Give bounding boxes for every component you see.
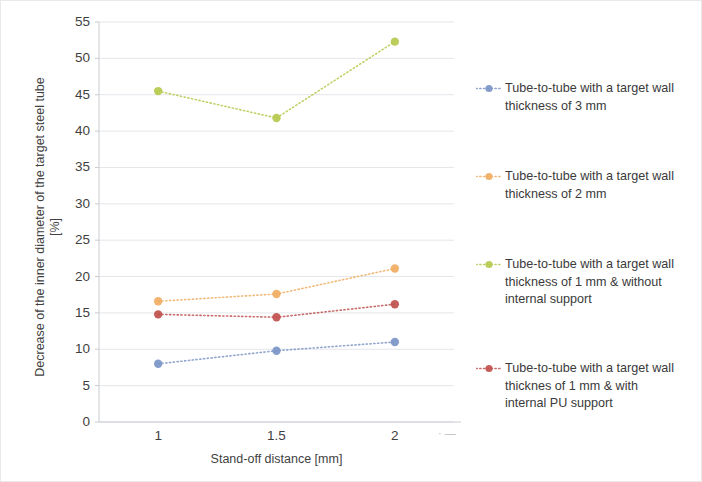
y-axis-tick-label: 25 [44, 233, 90, 247]
data-point-marker[interactable] [154, 310, 162, 318]
chart-figure: Decrease of the inner diameter of the ta… [0, 0, 702, 482]
y-axis-tick-label: 0 [44, 415, 90, 429]
x-axis-tick-label: 2 [365, 428, 425, 443]
gridlines [95, 22, 454, 422]
y-axis-tick-label: 15 [44, 306, 90, 320]
x-axis-tick-labels: 11.52 [99, 428, 464, 448]
y-axis-tick-label: 50 [44, 51, 90, 65]
legend-marker-green [476, 256, 502, 273]
y-axis-tick-labels: 5550454035302520151050 [44, 0, 90, 482]
data-point-marker[interactable] [391, 300, 399, 308]
legend-entry[interactable]: Tube-to-tube with a target wall thicknes… [476, 256, 698, 309]
series-markers [154, 37, 399, 368]
series-line [158, 42, 395, 118]
y-axis-tick-label: 55 [44, 15, 90, 29]
plot-area [99, 22, 454, 422]
scan-artifact-top [0, 0, 702, 1]
data-point-marker[interactable] [154, 87, 162, 95]
y-axis-tick-label: 45 [44, 88, 90, 102]
y-axis-tick-label: 40 [44, 124, 90, 138]
data-point-marker[interactable] [391, 338, 399, 346]
legend-entry-label: Tube-to-tube with a target wall thicknes… [505, 360, 698, 413]
y-axis-tick-label: 20 [44, 270, 90, 284]
plot-canvas [99, 22, 454, 422]
data-point-marker[interactable] [272, 114, 280, 122]
data-point-marker[interactable] [391, 264, 399, 272]
y-axis-tick-label: 35 [44, 160, 90, 174]
legend-entry[interactable]: Tube-to-tube with a target wall thicknes… [476, 80, 698, 115]
data-point-marker[interactable] [272, 313, 280, 321]
y-axis-tick-label: 30 [44, 197, 90, 211]
scan-artifact-left [0, 0, 1, 482]
data-point-marker[interactable] [154, 360, 162, 368]
legend-entry[interactable]: Tube-to-tube with a target wall thicknes… [476, 360, 698, 413]
data-point-marker[interactable] [272, 290, 280, 298]
legend-entry-label: Tube-to-tube with a target wall thicknes… [505, 256, 698, 309]
scan-artifact-dashes: · ― [438, 427, 456, 439]
y-axis-spine [96, 14, 102, 430]
x-axis-tick-label: 1 [128, 428, 188, 443]
legend-entry[interactable]: Tube-to-tube with a target wall thicknes… [476, 168, 698, 203]
data-point-marker[interactable] [272, 347, 280, 355]
legend-marker-blue [476, 80, 502, 97]
x-axis-title: Stand-off distance [mm] [99, 452, 454, 466]
legend-entry-label: Tube-to-tube with a target wall thicknes… [505, 80, 698, 115]
data-point-marker[interactable] [391, 37, 399, 45]
y-axis-tick-label: 10 [44, 342, 90, 356]
data-point-marker[interactable] [154, 297, 162, 305]
legend-marker-orange [476, 168, 502, 185]
y-axis-tick-label: 5 [44, 379, 90, 393]
x-axis-tick-label: 1.5 [247, 428, 307, 443]
legend-marker-red [476, 360, 502, 377]
x-axis-spine [96, 418, 464, 428]
legend-entry-label: Tube-to-tube with a target wall thicknes… [505, 168, 698, 203]
